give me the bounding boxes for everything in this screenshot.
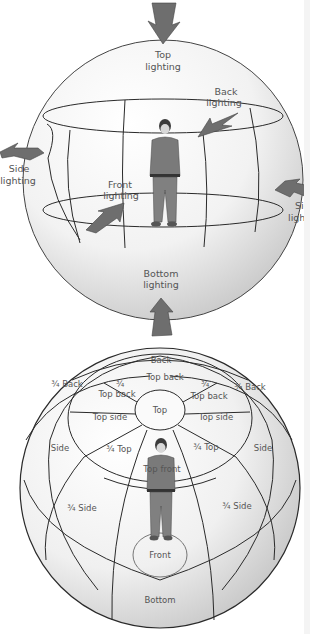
region-front: Front <box>149 550 171 560</box>
region-three-quarter-top-back-right-2: Top back <box>189 391 227 401</box>
region-three-quarter-top-back-left-1: ¾ <box>116 379 124 389</box>
region-side-left: Side <box>51 443 69 453</box>
front-lighting-label-1: Front <box>108 179 132 190</box>
side-left-label-2: lighting <box>0 175 36 186</box>
region-top-side-right: Top side <box>198 412 233 422</box>
back-lighting-label-1: Back <box>214 86 238 97</box>
region-top-front: Top front <box>142 464 181 474</box>
region-side-right: Side <box>254 443 272 453</box>
region-top: Top <box>152 405 167 415</box>
region-back: Back <box>151 355 172 365</box>
bottom-lighting-label-2: lighting <box>143 279 179 290</box>
lighting-diagram: Top lighting Back lighting Side lighting… <box>0 0 310 634</box>
region-three-quarter-top-left: ¾ Top <box>106 444 131 454</box>
side-left-label-1: Side <box>9 163 30 174</box>
page-edge <box>304 0 310 634</box>
top-arrow <box>148 3 180 44</box>
region-three-quarter-top-back-left-2: Top back <box>97 389 135 399</box>
region-top-side-left: Top side <box>92 412 127 422</box>
region-three-quarter-back-left: ¾ Back <box>51 379 83 389</box>
front-lighting-label-2: lighting <box>103 190 139 201</box>
region-three-quarter-back-right: ¾ Back <box>234 382 266 392</box>
region-three-quarter-top-back-right-1: ¾ <box>201 379 209 389</box>
bottom-sphere: Back Top back ¾ Back ¾ Back ¾ Top back ¾… <box>20 348 300 628</box>
region-three-quarter-side-left: ¾ Side <box>67 503 96 513</box>
top-sphere: Top lighting Back lighting Side lighting… <box>0 3 310 336</box>
region-top-back: Top back <box>145 372 183 382</box>
region-three-quarter-side-right: ¾ Side <box>222 501 251 511</box>
region-bottom: Bottom <box>144 595 175 605</box>
top-lighting-label-1: Top <box>154 49 171 60</box>
bottom-lighting-label-1: Bottom <box>144 268 179 279</box>
back-lighting-label-2: lighting <box>206 97 242 108</box>
top-lighting-label-2: lighting <box>145 61 181 72</box>
region-three-quarter-top-right: ¾ Top <box>193 442 218 452</box>
